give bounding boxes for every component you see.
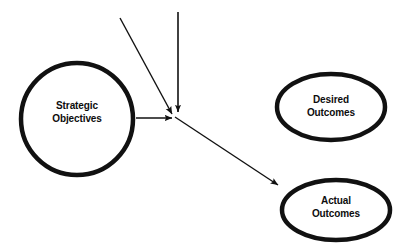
diagram-svg [0, 0, 400, 248]
diagram-canvas: Strategic Objectives Desired Outcomes Ac… [0, 0, 400, 248]
arrow-junction-to-actual [175, 117, 278, 185]
node-actual-outcomes[interactable] [282, 180, 390, 240]
node-desired-outcomes[interactable] [277, 74, 385, 140]
node-strategic-objectives[interactable] [21, 63, 133, 175]
